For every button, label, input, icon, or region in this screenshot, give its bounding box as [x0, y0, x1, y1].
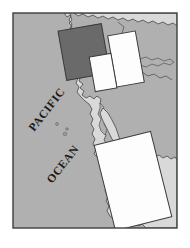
- island-marker-3: [63, 132, 67, 136]
- island-marker-1: [56, 123, 59, 126]
- island-marker-2: [66, 128, 69, 131]
- map-figure: PACIFIC OCEAN: [0, 0, 190, 248]
- map-canvas: PACIFIC OCEAN: [0, 0, 190, 248]
